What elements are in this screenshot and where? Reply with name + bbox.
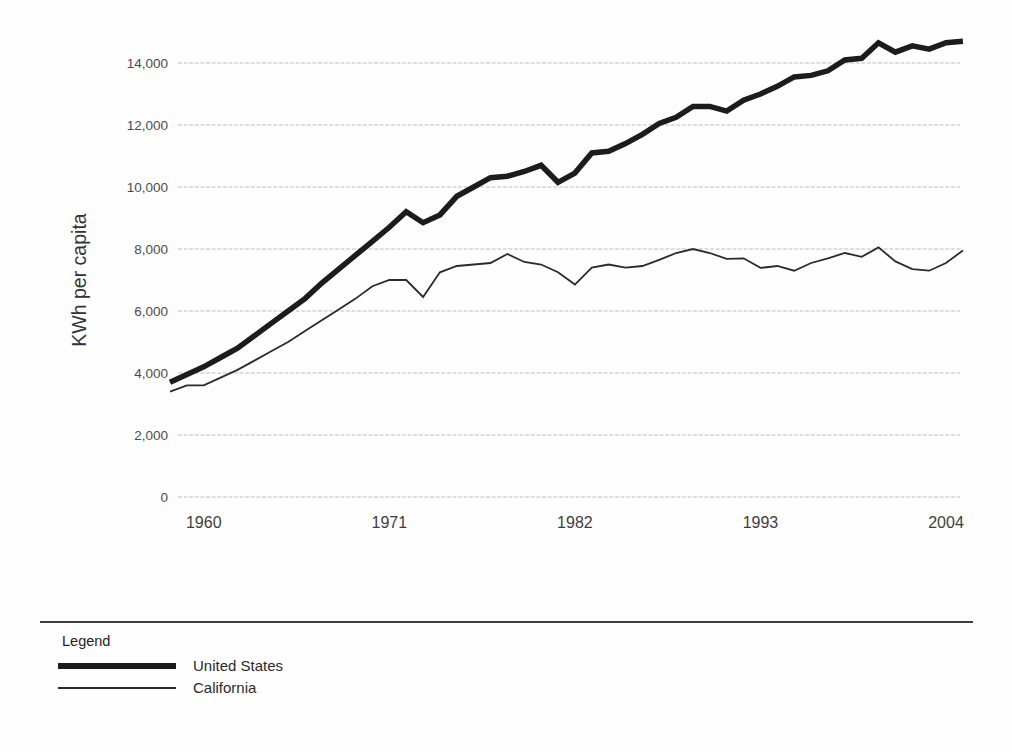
y-axis-tick-labels: 02,0004,0006,0008,00010,00012,00014,000 bbox=[127, 56, 168, 505]
y-tick-2000: 2,000 bbox=[134, 428, 168, 443]
legend-item-united-states: United States bbox=[58, 657, 283, 674]
x-tick-1960: 1960 bbox=[186, 514, 222, 531]
y-tick-14000: 14,000 bbox=[127, 56, 168, 71]
y-tick-6000: 6,000 bbox=[134, 304, 168, 319]
x-tick-1971: 1971 bbox=[372, 514, 408, 531]
y-axis-title: KWh per capita bbox=[68, 213, 90, 346]
y-tick-4000: 4,000 bbox=[134, 366, 168, 381]
legend-item-california: California bbox=[58, 679, 256, 696]
legend-divider bbox=[40, 621, 973, 623]
legend-label-california: California bbox=[193, 679, 256, 696]
united-states-line bbox=[170, 41, 963, 382]
x-tick-1982: 1982 bbox=[557, 514, 593, 531]
y-tick-8000: 8,000 bbox=[134, 242, 168, 257]
x-tick-2004: 2004 bbox=[928, 514, 964, 531]
california-line bbox=[170, 247, 963, 391]
legend-title: Legend bbox=[62, 633, 110, 649]
legend: Legend United States California bbox=[0, 619, 1012, 719]
y-tick-0: 0 bbox=[160, 490, 168, 505]
chart-canvas: 02,0004,0006,0008,00010,00012,00014,000 … bbox=[0, 0, 1012, 560]
x-tick-1993: 1993 bbox=[743, 514, 779, 531]
california-line-swatch bbox=[58, 687, 176, 689]
united-states-line-swatch bbox=[58, 663, 176, 669]
y-tick-12000: 12,000 bbox=[127, 118, 168, 133]
legend-label-united-states: United States bbox=[193, 657, 283, 674]
x-axis-tick-labels: 19601971198219932004 bbox=[186, 514, 964, 531]
y-tick-10000: 10,000 bbox=[127, 180, 168, 195]
data-series-group bbox=[170, 41, 963, 391]
scanned-chart-page: 02,0004,0006,0008,00010,00012,00014,000 … bbox=[0, 0, 1012, 752]
